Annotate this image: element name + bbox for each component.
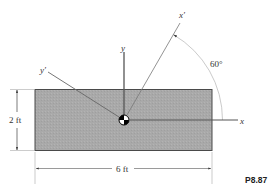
y-axis-label: y <box>120 43 125 53</box>
x-axis-label: x <box>239 116 244 126</box>
centroid-icon <box>119 115 129 125</box>
x-prime-axis-label: x′ <box>178 10 186 20</box>
width-dimension-label: 6 ft <box>116 164 129 174</box>
height-dimension-label: 2 ft <box>9 115 22 125</box>
diagram-canvas: x y x′ y′ 60° 2 ft 6 ft P8.87 <box>0 0 278 190</box>
angle-label: 60° <box>210 59 223 69</box>
y-prime-axis-label: y′ <box>39 65 47 75</box>
problem-label: P8.87 <box>245 175 267 185</box>
